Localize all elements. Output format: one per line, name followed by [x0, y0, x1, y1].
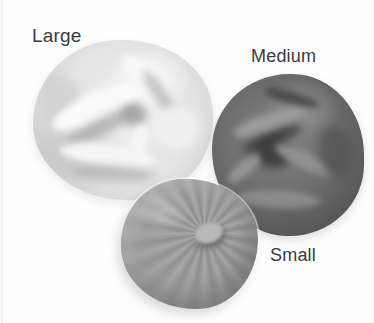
fold-shape	[263, 85, 320, 112]
fold-shape	[238, 188, 321, 210]
fold-shape	[153, 106, 199, 150]
fold-shape	[121, 104, 147, 126]
photo-figure: Large Medium Small	[0, 0, 374, 323]
label-small: Small	[270, 245, 316, 266]
fabric-flower-small	[121, 179, 258, 309]
label-large: Large	[32, 25, 82, 47]
scan-edge-line	[1, 0, 3, 323]
fold-shape	[224, 151, 264, 187]
fabric-flower-large	[33, 40, 213, 200]
label-medium: Medium	[251, 46, 316, 67]
